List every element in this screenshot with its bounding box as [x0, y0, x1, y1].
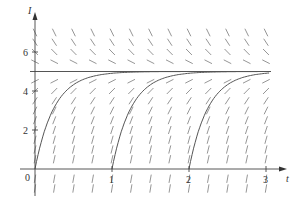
slope-segment	[149, 126, 152, 134]
slope-segment	[205, 60, 212, 64]
slope-segment	[186, 88, 192, 94]
slope-segment	[110, 29, 114, 37]
slope-segment	[109, 49, 115, 55]
slope-segment	[92, 155, 94, 163]
slope-segment	[246, 175, 247, 183]
slope-segment	[188, 145, 190, 153]
slope-segment	[110, 97, 115, 104]
slope-segment	[243, 79, 250, 83]
slope-segment	[208, 175, 209, 183]
slope-segment	[244, 49, 250, 55]
slope-segment	[185, 79, 192, 83]
slope-segment	[54, 175, 55, 183]
slope-segment	[244, 88, 250, 94]
slope-segment	[206, 97, 211, 104]
slope-segment	[129, 29, 133, 37]
ticks: 123246	[23, 47, 268, 186]
slope-segment	[245, 29, 249, 37]
slope-segment	[111, 126, 114, 134]
slope-segment	[110, 116, 113, 124]
slope-segment	[168, 116, 171, 124]
slope-segment	[263, 49, 269, 55]
slope-segment	[167, 88, 173, 94]
slope-segment	[226, 107, 230, 115]
slope-segment	[149, 116, 152, 124]
slope-segment	[129, 39, 134, 46]
slope-segment	[148, 88, 154, 94]
slope-segment	[72, 126, 75, 134]
slope-segment	[167, 39, 172, 46]
slope-field	[30, 29, 271, 193]
slope-segment	[53, 136, 55, 144]
slope-segment	[264, 29, 268, 37]
y-axis-arrow-icon	[33, 12, 38, 20]
slope-segment	[150, 155, 152, 163]
slope-segment	[111, 155, 113, 163]
slope-segment	[92, 175, 93, 183]
slope-segment	[70, 60, 77, 64]
slope-segment	[149, 136, 151, 144]
slope-segment	[246, 136, 248, 144]
slope-segment	[169, 145, 171, 153]
slope-segment	[89, 79, 96, 83]
slope-segment	[72, 116, 75, 124]
slope-segment	[128, 60, 135, 64]
slope-segment	[149, 145, 151, 153]
slope-segment	[264, 39, 269, 46]
slope-segment	[188, 155, 190, 163]
slope-segment	[264, 107, 268, 115]
slope-segment	[265, 145, 267, 153]
slope-segment	[226, 29, 230, 37]
slope-segment	[188, 136, 190, 144]
slope-segment	[149, 107, 153, 115]
slope-segment	[130, 126, 133, 134]
slope-segment	[149, 29, 153, 37]
plot-area: 123246 t I 0	[0, 0, 300, 206]
slope-segment	[225, 49, 231, 55]
slope-segment	[246, 155, 248, 163]
slope-segment	[71, 97, 76, 104]
slope-segment	[51, 60, 58, 64]
slope-segment	[72, 29, 76, 37]
solution-curve	[35, 72, 269, 170]
slope-segment	[109, 88, 115, 94]
slope-segment	[90, 88, 96, 94]
slope-segment	[131, 184, 132, 192]
slope-segment	[92, 145, 94, 153]
x-axis-label: t	[286, 173, 289, 184]
slope-segment	[225, 88, 231, 94]
slope-segment	[265, 155, 267, 163]
x-axis-arrow-icon	[279, 167, 287, 172]
slope-segment	[111, 145, 113, 153]
slope-segment	[52, 39, 57, 46]
slope-segment	[227, 155, 229, 163]
slope-segment	[225, 39, 230, 46]
slope-segment	[246, 145, 248, 153]
slope-segment	[72, 145, 74, 153]
slope-segment	[150, 175, 151, 183]
slope-segment	[53, 155, 55, 163]
slope-segment	[110, 107, 114, 115]
slope-segment	[169, 136, 171, 144]
slope-segment	[91, 126, 94, 134]
slope-segment	[89, 60, 96, 64]
slope-segment	[226, 116, 229, 124]
slope-segment	[111, 136, 113, 144]
slope-segment	[265, 184, 266, 192]
slope-segment	[187, 116, 190, 124]
slope-segment	[91, 107, 95, 115]
slope-segment	[167, 49, 173, 55]
slope-segment	[51, 79, 58, 83]
slope-segment	[148, 49, 154, 55]
slope-segment	[128, 88, 134, 94]
slope-segment	[73, 184, 74, 192]
slope-segment	[225, 97, 230, 104]
slope-segment	[168, 107, 172, 115]
slope-segment	[205, 49, 211, 55]
slope-segment	[90, 49, 96, 55]
slope-segment	[207, 145, 209, 153]
slope-segment	[51, 49, 57, 55]
slope-segment	[206, 29, 210, 37]
slope-segment	[131, 175, 132, 183]
slope-segment	[264, 97, 269, 104]
